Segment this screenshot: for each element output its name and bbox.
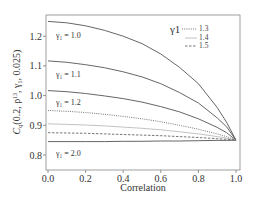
series-line: [48, 140, 236, 141]
series-line: [48, 111, 236, 141]
x-tick-label: 0.8: [192, 173, 205, 184]
y-axis-label: Cq(0.2, ρ13, γ1, 0.025): [11, 50, 23, 135]
y-tick-label: 1.2: [30, 31, 43, 42]
y-tick-label: 1.1: [30, 60, 43, 71]
legend-title: γ1: [169, 23, 180, 35]
annotation-gamma-2-0: γ₁ = 2.0: [55, 149, 81, 158]
chart: 0.80.91.01.11.2 0.00.20.40.60.81.0 γ₁ = …: [0, 0, 255, 197]
y-tick-label: 0.9: [30, 120, 43, 131]
legend-label-1-3: 1.3: [199, 24, 209, 33]
annotation-gamma-1-1: γ₁ = 1.1: [55, 70, 81, 79]
annotation-gamma-1-0: γ₁ = 1.0: [55, 31, 81, 40]
x-tick-label: 0.2: [79, 173, 92, 184]
y-axis: 0.80.91.01.11.2: [30, 31, 47, 161]
x-axis-label: Correlation: [120, 182, 166, 193]
annotation-gamma-1-2: γ₁ = 1.2: [55, 98, 81, 107]
legend: γ1 1.3 1.4 1.5: [169, 23, 209, 50]
series-line: [48, 133, 236, 141]
y-tick-label: 0.8: [30, 150, 43, 161]
y-tick-label: 1.0: [30, 90, 43, 101]
x-tick-label: 0.0: [42, 173, 55, 184]
legend-label-1-5: 1.5: [199, 41, 209, 50]
x-tick-label: 1.0: [230, 173, 243, 184]
